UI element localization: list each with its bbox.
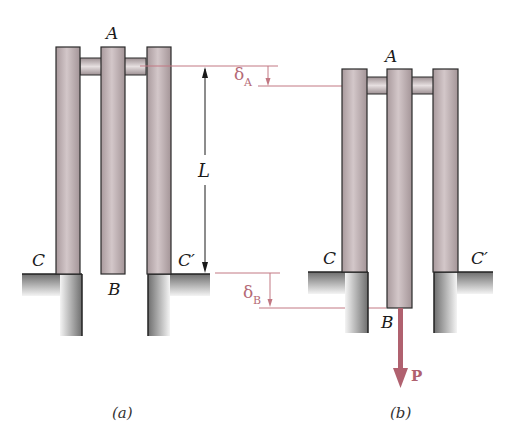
bar-middle-b: [387, 69, 412, 308]
ground-support-left-a: [22, 274, 82, 336]
label-L: L: [197, 160, 210, 181]
ground-support-right-b: [434, 272, 493, 333]
bar-right-a: [147, 47, 171, 274]
delta-a-symbol: δ: [234, 64, 244, 84]
bar-middle-a: [101, 47, 125, 274]
arrowhead-down-icon: [266, 78, 271, 86]
bar-right-b: [433, 69, 458, 272]
label-b-bottom: B: [107, 279, 121, 299]
label-c-left: C: [32, 250, 45, 270]
label-a-top: A: [104, 23, 118, 43]
bar-left-a: [56, 47, 80, 274]
delta-b-subscript: B: [253, 294, 261, 307]
caption-b: (b): [390, 404, 411, 422]
delta-a-subscript: A: [243, 76, 253, 89]
bar-left-b: [342, 69, 367, 272]
arrowhead-down-icon: [268, 299, 273, 307]
panel-b: A B C C′ P (b): [308, 46, 493, 422]
force-arrow-P: P: [393, 308, 422, 388]
label-c-left: C: [323, 248, 336, 268]
label-force-P: P: [411, 367, 422, 385]
arrowhead-up-icon: [202, 67, 208, 78]
dimension-length-L: L: [197, 67, 210, 273]
caption-a: (a): [112, 404, 133, 422]
arrowhead-down-icon: [393, 368, 408, 388]
label-c-prime-right: C′: [471, 248, 488, 268]
three-bar-diagram: A B C C′ L (a) δ A δ B: [0, 0, 508, 446]
arrowhead-down-icon: [202, 262, 208, 273]
label-b-bottom: B: [380, 312, 394, 332]
ground-support-left-b: [308, 272, 368, 333]
label-a-top: A: [383, 46, 397, 66]
delta-b-symbol: δ: [243, 282, 253, 302]
label-c-prime-right: C′: [178, 250, 195, 270]
ground-support-right-a: [148, 274, 210, 336]
panel-a: A B C C′ L (a): [22, 23, 210, 422]
